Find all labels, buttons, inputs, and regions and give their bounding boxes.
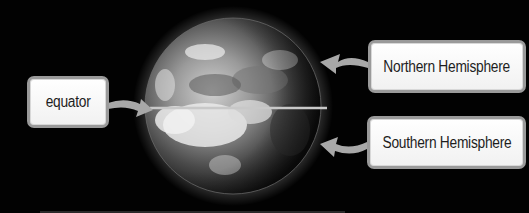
southern-hemisphere-label: Southern Hemisphere [382,134,511,152]
southern-hemisphere-label-box: Southern Hemisphere [367,116,526,169]
diagram-canvas: equator Northern Hemisphere Southern Hem… [0,0,529,213]
northern-hemisphere-label-box: Northern Hemisphere [368,40,526,93]
southern-arrow [320,137,367,157]
northern-arrow [320,54,368,74]
bottom-divider [40,211,345,213]
northern-hemisphere-label: Northern Hemisphere [384,58,511,76]
equator-label: equator [46,93,91,111]
equator-label-box: equator [27,76,109,128]
